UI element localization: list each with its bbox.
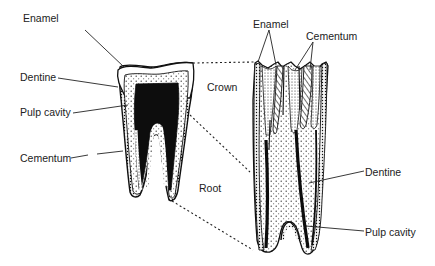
left-tooth-pulp bbox=[134, 83, 178, 190]
label-enamel-right: Enamel bbox=[253, 18, 289, 30]
right-tooth bbox=[253, 61, 328, 254]
label-dentine-left: Dentine bbox=[20, 71, 56, 83]
label-pulp-cavity-left: Pulp cavity bbox=[20, 106, 71, 118]
label-pulp-cavity-right: Pulp cavity bbox=[365, 226, 416, 238]
right-tooth-pulp bbox=[266, 140, 268, 248]
label-enamel-left: Enamel bbox=[23, 12, 59, 24]
label-cementum-left: Cementum bbox=[20, 152, 71, 164]
label-dentine-right: Dentine bbox=[365, 166, 401, 178]
tooth-diagram: Enamel Dentine Pulp cavity Cementum Crow… bbox=[0, 0, 435, 266]
left-tooth bbox=[118, 62, 194, 200]
label-cementum-right: Cementum bbox=[306, 30, 357, 42]
label-root: Root bbox=[199, 182, 221, 194]
label-crown: Crown bbox=[207, 81, 237, 93]
